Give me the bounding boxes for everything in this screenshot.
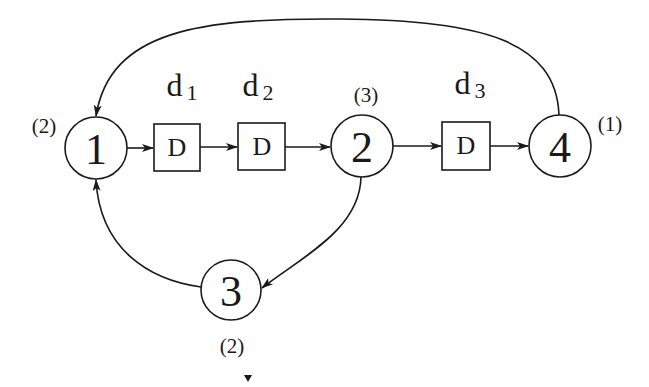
delay-d1-name: d1 (167, 69, 198, 104)
node-3-label: 3 (220, 270, 242, 314)
edge-2-3 (262, 177, 361, 288)
delay-box-d2-label: D (253, 134, 272, 160)
delay-box-d1-label: D (168, 135, 187, 161)
delay-box-d3-label: D (457, 133, 476, 159)
node-3-weight: (2) (220, 336, 245, 357)
edge-3-1 (96, 180, 201, 287)
node-4-weight: (1) (598, 114, 623, 135)
edge-4-1 (96, 19, 559, 116)
node-1-label: 1 (85, 128, 107, 172)
node-2-weight: (3) (354, 85, 379, 106)
node-4-label: 4 (549, 126, 571, 170)
bottom-mark-icon (244, 375, 252, 382)
delay-d2-name: d2 (243, 69, 274, 104)
node-2-label: 2 (351, 126, 373, 170)
delay-d3-name: d3 (455, 67, 486, 102)
diagram-canvas (0, 0, 649, 387)
node-1-weight: (2) (32, 116, 57, 137)
